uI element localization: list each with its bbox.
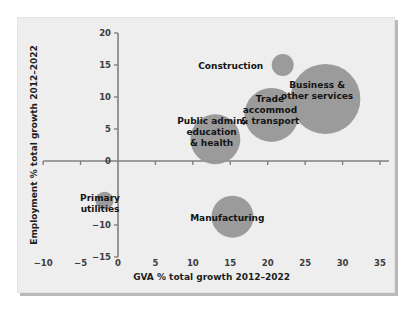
x-tick-label: 10 (187, 258, 199, 268)
y-tick-label: 0 (105, 156, 111, 166)
x-tick-label: 20 (262, 258, 274, 268)
figure-container: 20151050−10−15−10−505101520253035Constru… (0, 0, 418, 315)
bubble-label: accommod (243, 105, 297, 115)
bubble-label-group: Primaryutilities (80, 193, 120, 214)
bubble-label: Trade (256, 94, 284, 104)
x-tick-label: 5 (152, 258, 158, 268)
x-axis-title: GVA % total growth 2012–2022 (133, 272, 290, 282)
x-tick-label: 0 (115, 258, 121, 268)
y-tick-label: 5 (105, 124, 111, 134)
y-tick-label: 20 (99, 28, 111, 38)
y-tick-label: −15 (92, 252, 111, 262)
bubble-construction[interactable] (272, 54, 294, 76)
x-tick-label: −5 (74, 258, 87, 268)
bubble-label-group: Manufacturing (190, 213, 264, 223)
bubble-label: Construction (198, 61, 263, 71)
bubble-label: & transport (240, 116, 300, 126)
bubble-label-group: Construction (198, 61, 263, 71)
x-tick-label: 15 (224, 258, 236, 268)
x-tick-label: −10 (34, 258, 53, 268)
x-tick-label: 30 (337, 258, 349, 268)
y-axis-title: Employment % total growth 2012–2022 (29, 45, 39, 244)
y-tick-label: −10 (92, 220, 111, 230)
bubble-label-group: Business &other services (281, 80, 353, 101)
bubble-label: Business & (289, 80, 345, 90)
bubble-label: education (186, 127, 236, 137)
bubble-label: Manufacturing (190, 213, 264, 223)
bubble-label: other services (281, 91, 353, 101)
bubble-label: Public admin, (177, 116, 246, 126)
bubble-label: & health (190, 138, 233, 148)
y-tick-label: 15 (99, 60, 111, 70)
x-tick-label: 35 (374, 258, 386, 268)
y-tick-label: 10 (99, 92, 111, 102)
bubble-label: utilities (81, 204, 120, 214)
bubble-label: Primary (80, 193, 120, 203)
x-tick-label: 25 (299, 258, 311, 268)
bubble-chart: 20151050−10−15−10−505101520253035Constru… (0, 0, 418, 315)
